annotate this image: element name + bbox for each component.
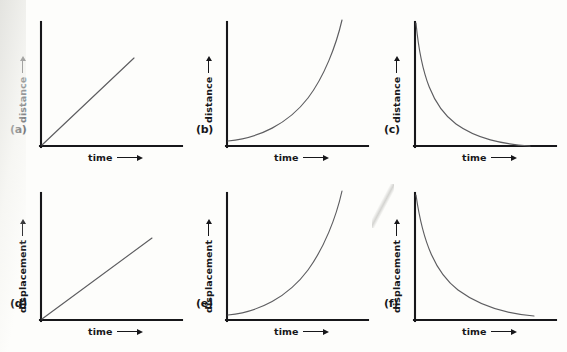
y-axis-label-text: displacement [391, 240, 402, 313]
y-axis-label-text: displacement [203, 240, 214, 313]
panel-c-plot [378, 0, 567, 176]
panel-d: (d) displacement time [0, 176, 189, 352]
y-axis-arrow-icon [393, 56, 400, 73]
x-axis-label-text: time [462, 152, 487, 163]
data-curve [416, 23, 530, 146]
y-axis-arrow-icon [19, 219, 26, 236]
y-axis-arrow-icon [205, 56, 212, 73]
x-axis-label-text: time [274, 152, 299, 163]
x-axis-label: time [88, 326, 143, 337]
y-axis-label: displacement [17, 219, 28, 313]
data-curve [228, 191, 342, 315]
data-curve [416, 195, 534, 316]
y-axis-arrow-icon [205, 219, 212, 236]
x-axis-label-text: time [88, 152, 113, 163]
x-axis-label: time [88, 152, 143, 163]
panel-e: (e) displacement time [189, 176, 378, 352]
data-curve [42, 238, 152, 319]
y-axis-label: distance [203, 56, 214, 123]
y-axis-label-text: distance [203, 77, 214, 123]
data-curve [42, 58, 134, 145]
x-axis-arrow-icon [117, 328, 143, 335]
panel-a-plot [0, 0, 189, 176]
x-axis-arrow-icon [491, 154, 517, 161]
y-axis-arrow-icon [19, 56, 26, 73]
y-axis-label: displacement [203, 219, 214, 313]
panel-b: (b) distance time [189, 0, 378, 176]
y-axis-label-text: displacement [17, 240, 28, 313]
x-axis-label: time [462, 152, 517, 163]
x-axis-arrow-icon [491, 328, 517, 335]
x-axis-label-text: time [462, 326, 487, 337]
y-axis-label-text: distance [17, 77, 28, 123]
x-axis-arrow-icon [117, 154, 143, 161]
x-axis-label: time [274, 326, 329, 337]
panel-b-plot [189, 0, 378, 176]
panel-label: (c) [384, 123, 400, 136]
x-axis-label: time [274, 152, 329, 163]
y-axis-label: distance [391, 56, 402, 123]
panel-a: (a) distance time [0, 0, 189, 176]
y-axis-arrow-icon [393, 219, 400, 236]
y-axis-label: displacement [391, 219, 402, 313]
x-axis-label-text: time [88, 326, 113, 337]
panel-label: (a) [10, 123, 27, 136]
y-axis-label-text: distance [391, 77, 402, 123]
x-axis-label: time [462, 326, 517, 337]
data-curve [228, 20, 342, 141]
panel-label: (b) [196, 123, 213, 136]
x-axis-label-text: time [274, 326, 299, 337]
x-axis-arrow-icon [303, 154, 329, 161]
x-axis-arrow-icon [303, 328, 329, 335]
figure-grid: (a) distance time (b) distance time [0, 0, 567, 352]
y-axis-label: distance [17, 56, 28, 123]
panel-f: (f) displacement time [378, 176, 567, 352]
panel-c: (c) distance time [378, 0, 567, 176]
